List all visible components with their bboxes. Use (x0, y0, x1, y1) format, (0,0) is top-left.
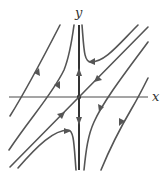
x-axis-label: x (152, 89, 160, 104)
arrow-down-left-icon (94, 75, 102, 82)
arrow-left-icon (88, 58, 95, 65)
arrow-down-icon (76, 117, 82, 125)
y-axis-label: y (74, 5, 83, 20)
right-curve-outer (101, 78, 148, 170)
arrow-up-icon (76, 68, 82, 76)
hyperbola-top-right (82, 25, 138, 62)
phase-portrait: x y (0, 0, 167, 178)
arrow-right-icon (64, 128, 71, 134)
left-curve-outer (10, 25, 60, 116)
